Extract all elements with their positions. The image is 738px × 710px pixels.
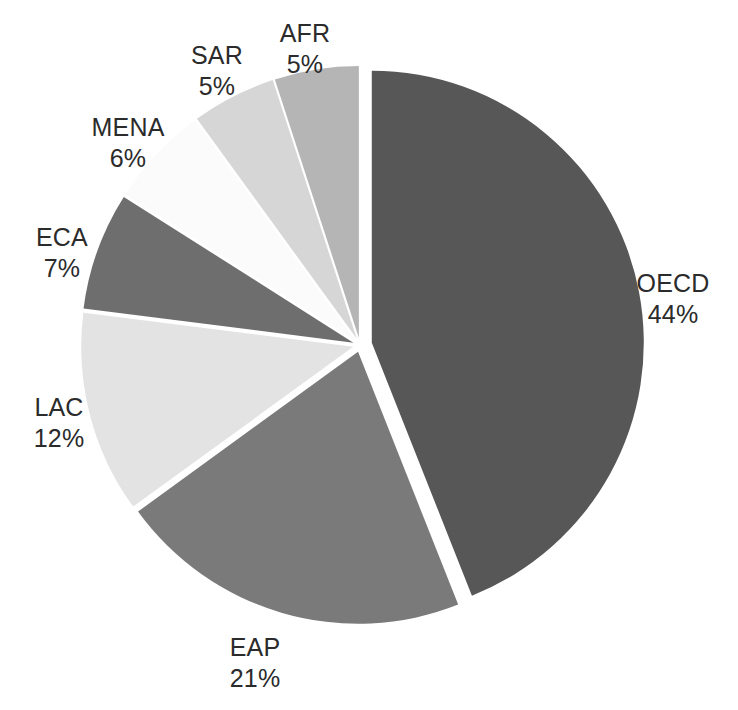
pie-label-lac-percent: 12%	[0, 423, 124, 454]
pie-label-oecd-name: OECD	[608, 268, 738, 299]
pie-label-lac: LAC 12%	[0, 392, 124, 453]
pie-label-eap-percent: 21%	[190, 663, 320, 694]
pie-label-eca-name: ECA	[0, 222, 127, 253]
pie-label-lac-name: LAC	[0, 392, 124, 423]
pie-label-afr-name: AFR	[240, 18, 370, 49]
pie-label-eca: ECA 7%	[0, 222, 127, 283]
pie-label-eap: EAP 21%	[190, 632, 320, 693]
pie-label-oecd: OECD 44%	[608, 268, 738, 329]
pie-label-mena-name: MENA	[63, 112, 193, 143]
pie-label-oecd-percent: 44%	[608, 299, 738, 330]
pie-label-afr: AFR 5%	[240, 18, 370, 79]
pie-chart-canvas	[0, 0, 738, 710]
pie-label-afr-percent: 5%	[240, 49, 370, 80]
pie-chart: OECD 44% EAP 21% LAC 12% ECA 7% MENA 6% …	[0, 0, 738, 710]
pie-label-eca-percent: 7%	[0, 253, 127, 284]
pie-label-eap-name: EAP	[190, 632, 320, 663]
pie-label-mena: MENA 6%	[63, 112, 193, 173]
pie-label-mena-percent: 6%	[63, 143, 193, 174]
